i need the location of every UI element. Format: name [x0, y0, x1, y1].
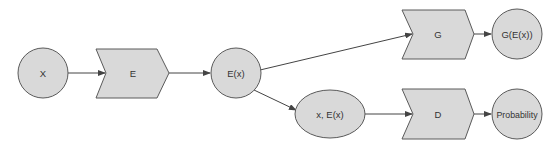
node-probability: Probability: [492, 89, 542, 139]
node-g: G: [402, 10, 474, 59]
node-x: X: [18, 48, 68, 98]
node-xex: x, E(x): [295, 90, 365, 138]
node-ex: E(x): [211, 48, 261, 98]
node-ex-label: E(x): [227, 68, 244, 79]
node-xex-label: x, E(x): [316, 109, 343, 120]
node-e-label: E: [130, 68, 136, 79]
edge-ex-to-g: [260, 34, 412, 70]
node-x-label: X: [40, 68, 47, 79]
diagram-canvas: X E E(x) x, E(x) G G(E(x)) D Probability: [0, 0, 559, 145]
node-g-label: G: [434, 29, 441, 40]
node-e: E: [96, 49, 169, 98]
node-gex: G(E(x)): [492, 9, 542, 59]
node-probability-label: Probability: [496, 110, 538, 120]
node-d: D: [402, 89, 474, 139]
node-gex-label: G(E(x)): [501, 29, 532, 40]
node-d-label: D: [435, 109, 442, 120]
edge-ex-to-xex: [254, 90, 296, 110]
